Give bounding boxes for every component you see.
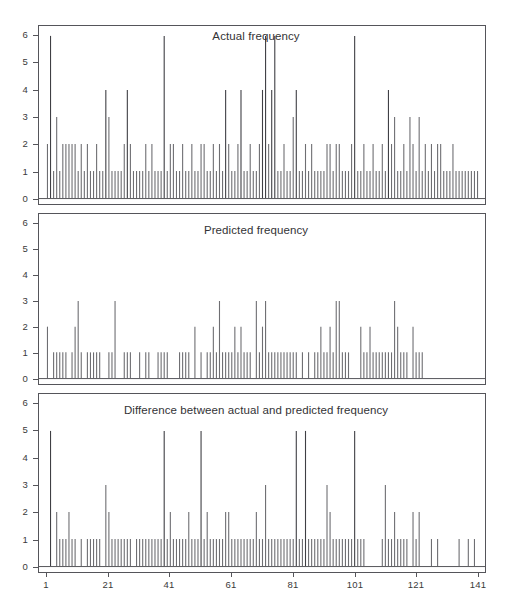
y-tick-mark [33, 403, 38, 404]
y-tick-label: 1 [10, 167, 28, 177]
y-tick-mark [33, 35, 38, 36]
x-tick-label: 81 [278, 580, 308, 590]
x-tick-label: 61 [216, 580, 246, 590]
plot-frame-difference [38, 393, 486, 573]
y-tick-label: 6 [10, 218, 28, 228]
y-tick-label: 5 [10, 244, 28, 254]
panel-title-predicted: Predicted frequency [0, 224, 512, 236]
y-tick-mark [33, 144, 38, 145]
panel-title-difference: Difference between actual and predicted … [0, 404, 512, 416]
y-tick-label: 6 [10, 398, 28, 408]
x-tick-label: 101 [340, 580, 370, 590]
y-tick-label: 1 [10, 535, 28, 545]
y-tick-mark [33, 90, 38, 91]
y-tick-label: 5 [10, 425, 28, 435]
y-tick-mark [33, 172, 38, 173]
x-tick-label: 1 [31, 580, 61, 590]
y-tick-mark [33, 223, 38, 224]
y-tick-label: 2 [10, 139, 28, 149]
panel-title-actual: Actual frequency [0, 30, 512, 42]
y-tick-label: 3 [10, 112, 28, 122]
y-tick-mark [33, 62, 38, 63]
y-tick-label: 0 [10, 374, 28, 384]
plot-frame-predicted [38, 213, 486, 385]
x-tick-label: 21 [93, 580, 123, 590]
x-tick-mark [169, 573, 170, 577]
plot-frame-actual [38, 25, 486, 205]
y-tick-mark [33, 379, 38, 380]
y-tick-label: 6 [10, 30, 28, 40]
y-tick-mark [33, 275, 38, 276]
y-tick-label: 2 [10, 507, 28, 517]
y-tick-label: 3 [10, 296, 28, 306]
y-tick-mark [33, 249, 38, 250]
y-tick-mark [33, 117, 38, 118]
figure-canvas: Actual frequency 0123456 Predicted frequ… [0, 0, 512, 610]
x-tick-mark [355, 573, 356, 577]
y-tick-mark [33, 430, 38, 431]
x-tick-label: 121 [401, 580, 431, 590]
x-tick-mark [478, 573, 479, 577]
y-tick-label: 0 [10, 194, 28, 204]
spike-series-actual [39, 26, 485, 204]
x-tick-label: 141 [463, 580, 493, 590]
y-tick-mark [33, 199, 38, 200]
y-tick-mark [33, 540, 38, 541]
y-tick-label: 4 [10, 270, 28, 280]
y-tick-label: 2 [10, 322, 28, 332]
y-tick-mark [33, 567, 38, 568]
y-tick-mark [33, 327, 38, 328]
x-tick-mark [293, 573, 294, 577]
y-tick-mark [33, 458, 38, 459]
y-tick-mark [33, 485, 38, 486]
y-tick-label: 5 [10, 57, 28, 67]
y-tick-mark [33, 353, 38, 354]
x-tick-mark [231, 573, 232, 577]
y-tick-label: 0 [10, 562, 28, 572]
y-tick-label: 4 [10, 85, 28, 95]
y-tick-mark [33, 301, 38, 302]
y-tick-label: 1 [10, 348, 28, 358]
spike-series-difference [39, 394, 485, 572]
x-tick-mark [108, 573, 109, 577]
x-tick-mark [416, 573, 417, 577]
x-tick-mark [46, 573, 47, 577]
y-tick-label: 3 [10, 480, 28, 490]
x-tick-label: 41 [154, 580, 184, 590]
spike-series-predicted [39, 214, 485, 384]
y-tick-label: 4 [10, 453, 28, 463]
y-tick-mark [33, 512, 38, 513]
